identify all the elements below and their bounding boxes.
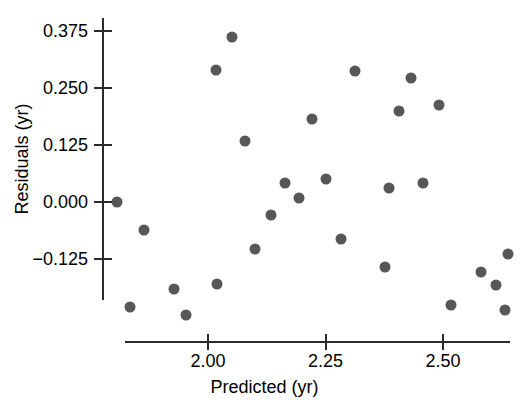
y-axis-tick-label: 0.375 [0, 22, 88, 40]
data-point [394, 105, 405, 116]
data-point [476, 267, 487, 278]
data-point [418, 177, 429, 188]
y-axis-title: Residuals (yr) [13, 59, 31, 259]
data-point [499, 305, 510, 316]
data-point [139, 224, 150, 235]
x-axis-title: Predicted (yr) [0, 378, 529, 396]
x-axis-tick [442, 334, 444, 350]
data-point [111, 197, 122, 208]
data-point [307, 114, 318, 125]
data-point [226, 31, 237, 42]
y-axis-tick [94, 30, 112, 32]
data-point [320, 174, 331, 185]
data-point [433, 99, 444, 110]
x-axis-tick [207, 334, 209, 350]
data-point [350, 66, 361, 77]
residual-scatter-plot: 0.3750.2500.1250.000−0.125 2.002.252.50 … [0, 0, 529, 406]
data-point [212, 279, 223, 290]
y-axis-tick [94, 258, 112, 260]
x-axis-tick-label: 2.25 [308, 352, 343, 370]
data-point [380, 262, 391, 273]
x-axis-tick-label: 2.50 [425, 352, 460, 370]
x-axis-tick-label: 2.00 [190, 352, 225, 370]
data-point [491, 279, 502, 290]
y-axis-tick [94, 144, 112, 146]
data-point [211, 64, 222, 75]
data-point [265, 210, 276, 221]
data-point [181, 310, 192, 321]
data-point [124, 301, 135, 312]
y-axis-tick [94, 201, 112, 203]
data-point [405, 72, 416, 83]
data-point [445, 300, 456, 311]
data-point [503, 248, 514, 259]
data-point [169, 284, 180, 295]
x-axis-tick [325, 334, 327, 350]
data-point [279, 177, 290, 188]
data-point [239, 135, 250, 146]
y-axis-tick [94, 87, 112, 89]
data-point [294, 192, 305, 203]
data-point [250, 243, 261, 254]
data-point [336, 233, 347, 244]
data-point [383, 182, 394, 193]
x-axis-line [125, 341, 510, 343]
